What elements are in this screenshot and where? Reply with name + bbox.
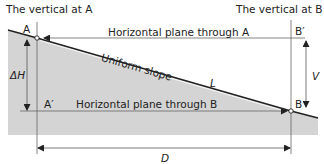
plane-b-label: Horizontal plane through B [76,99,217,110]
point-a-label: A [23,24,30,35]
vertical-a-title: The vertical at A [6,4,92,15]
vertical-b-title: The vertical at B [236,4,322,15]
point-b-marker [289,109,293,113]
slope-length-label: L [210,78,216,89]
point-b-prime-label: B′ [295,26,305,37]
point-a-prime-label: A′ [44,99,54,110]
point-b-label: B [295,99,302,110]
plane-a-label: Horizontal plane through A [108,27,249,38]
distance-d-label: D [161,153,169,164]
point-a-marker [35,36,39,40]
delta-h-label: ΔH [10,70,25,81]
slope-diagram [0,0,324,164]
ground-area [8,30,318,135]
v-label: V [312,71,319,82]
